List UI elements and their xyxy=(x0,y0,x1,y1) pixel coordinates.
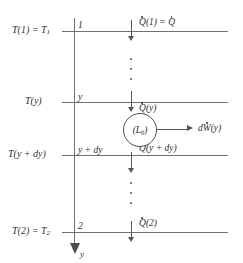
work-label-suffix: (y) xyxy=(211,123,222,133)
temperature-text: T(y) xyxy=(25,95,42,106)
temperature-subscript: 1 xyxy=(47,28,51,36)
ellipsis-dot xyxy=(130,58,132,60)
heat-symbol: Q xyxy=(139,219,146,229)
y-axis-arrowhead xyxy=(70,243,80,254)
heat-label-text: (y + dy) xyxy=(146,143,177,153)
temperature-subscript: 2 xyxy=(47,229,51,237)
device-label-open: (L xyxy=(133,125,141,135)
station-marker-2: 2 xyxy=(78,222,83,232)
temperature-label-station-y: T(y) xyxy=(25,96,42,106)
heat-arrow-station-y xyxy=(126,91,136,113)
ellipsis-lower xyxy=(129,182,133,204)
station-line-1 xyxy=(62,31,228,32)
temperature-text: T(2) = T xyxy=(12,225,47,236)
ellipsis-dot xyxy=(130,182,132,184)
heat-symbol: Q xyxy=(168,18,175,28)
station-marker-1: 1 xyxy=(78,21,83,31)
temperature-label-station-2: T(2) = T2 xyxy=(12,226,50,237)
ellipsis-dot xyxy=(130,78,132,80)
ellipsis-upper xyxy=(129,58,133,80)
ellipsis-dot xyxy=(130,68,132,70)
station-marker-y: y xyxy=(78,93,82,103)
y-axis-label: y xyxy=(80,250,84,259)
device-circle: (Lij) xyxy=(123,113,157,147)
heat-label-station-2: Q(2) xyxy=(139,219,157,229)
temperature-text: T(y + dy) xyxy=(8,148,46,159)
work-output-arrow xyxy=(157,125,194,134)
temperature-label-station-1: T(1) = T1 xyxy=(12,25,50,36)
heat-symbol: Q xyxy=(139,18,146,28)
heat-label-text: (1) = xyxy=(146,17,168,27)
heat-label-station-y: Q(y) xyxy=(139,104,156,114)
heat-label-text: (2) xyxy=(146,218,157,228)
ellipsis-dot xyxy=(130,202,132,204)
thermodynamic-schematic-figure: y (Lij) dW(y) T xyxy=(0,0,243,263)
heat-label-text: (y) xyxy=(146,103,157,113)
station-marker-y-dy: y + dy xyxy=(78,146,102,156)
heat-arrow-station-2 xyxy=(126,221,136,243)
work-label-symbol: W xyxy=(203,124,211,134)
y-axis-line xyxy=(74,18,75,245)
heat-arrow-station-1 xyxy=(126,20,136,42)
work-output-label: dW(y) xyxy=(198,124,221,134)
temperature-label-station-y-dy: T(y + dy) xyxy=(8,149,46,159)
station-line-2 xyxy=(62,232,228,233)
device-label-close: ) xyxy=(144,125,147,135)
ellipsis-dot xyxy=(130,192,132,194)
device-label: (Lij) xyxy=(133,125,147,135)
heat-label-station-1: Q(1) = Q xyxy=(139,18,175,28)
heat-arrow-station-y-dy xyxy=(126,152,136,174)
temperature-text: T(1) = T xyxy=(12,24,47,35)
